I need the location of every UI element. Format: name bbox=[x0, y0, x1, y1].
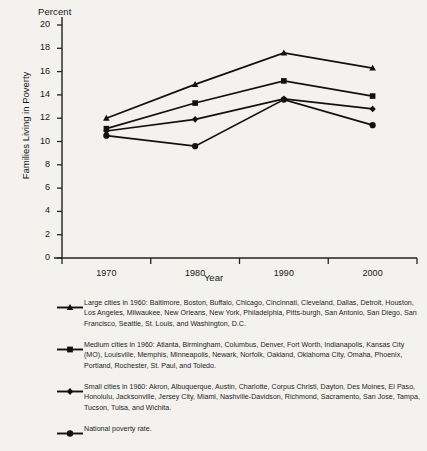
legend-marker-diamond-icon bbox=[56, 383, 84, 394]
y-tick-label: 12 bbox=[24, 112, 50, 122]
data-point-marker-square bbox=[67, 347, 73, 353]
legend-label: Small cities in 1960: Akron, Albuquerque… bbox=[84, 382, 422, 413]
series-line bbox=[106, 100, 372, 147]
legend-label: Large cities in 1960: Baltimore, Boston,… bbox=[84, 298, 422, 329]
data-point-marker-circle bbox=[192, 143, 198, 149]
chart-legend: Large cities in 1960: Baltimore, Boston,… bbox=[0, 296, 427, 451]
legend-label: National poverty rate. bbox=[84, 424, 152, 434]
data-point-marker-diamond bbox=[369, 105, 375, 112]
data-point-marker-triangle bbox=[281, 49, 288, 55]
chart-plot-area: Percent Families Living in Poverty Year … bbox=[0, 0, 427, 295]
data-point-marker-circle bbox=[281, 96, 287, 102]
data-point-marker-circle bbox=[369, 122, 375, 128]
legend-marker-triangle-icon bbox=[56, 299, 84, 310]
y-tick-label: 2 bbox=[24, 229, 50, 239]
x-tick-label: 1980 bbox=[170, 268, 220, 278]
data-point-marker-diamond bbox=[67, 388, 73, 395]
x-tick-label: 1970 bbox=[81, 268, 131, 278]
data-point-marker-square bbox=[281, 78, 287, 84]
data-point-marker-circle bbox=[103, 133, 109, 139]
legend-item[interactable]: Small cities in 1960: Akron, Albuquerque… bbox=[56, 382, 422, 413]
y-tick-label: 6 bbox=[24, 182, 50, 192]
y-tick-label: 20 bbox=[24, 19, 50, 29]
legend-label: Medium cities in 1960: Atlanta, Birmingh… bbox=[84, 340, 422, 371]
x-tick-label: 1990 bbox=[259, 268, 309, 278]
data-point-marker-square bbox=[370, 93, 376, 99]
legend-item[interactable]: National poverty rate. bbox=[56, 424, 422, 436]
data-point-marker-diamond bbox=[192, 116, 198, 123]
y-tick-label: 18 bbox=[24, 42, 50, 52]
chart-series-layer bbox=[103, 49, 376, 149]
y-tick-label: 16 bbox=[24, 66, 50, 76]
poverty-line-chart-figure: Percent Families Living in Poverty Year … bbox=[0, 0, 427, 451]
legend-marker-square-icon bbox=[56, 341, 84, 352]
y-tick-label: 14 bbox=[24, 89, 50, 99]
legend-item[interactable]: Medium cities in 1960: Atlanta, Birmingh… bbox=[56, 340, 422, 371]
legend-marker-circle-icon bbox=[56, 425, 84, 436]
y-tick-label: 10 bbox=[24, 136, 50, 146]
y-tick-label: 4 bbox=[24, 205, 50, 215]
x-tick-label: 2000 bbox=[348, 268, 398, 278]
chart-svg bbox=[0, 0, 427, 295]
data-point-marker-square bbox=[192, 100, 198, 106]
chart-axes bbox=[54, 17, 417, 264]
y-tick-label: 8 bbox=[24, 159, 50, 169]
data-point-marker-circle bbox=[67, 430, 73, 436]
y-tick-label: 0 bbox=[24, 252, 50, 262]
legend-item[interactable]: Large cities in 1960: Baltimore, Boston,… bbox=[56, 298, 422, 329]
